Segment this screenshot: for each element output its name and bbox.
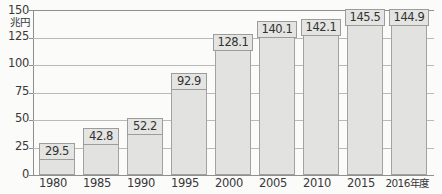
bar-2000 bbox=[215, 34, 251, 175]
y-axis-unit-label: 兆円 bbox=[0, 17, 29, 28]
y-tick-label-25: 25 bbox=[0, 141, 29, 152]
bar-2005 bbox=[259, 21, 295, 175]
bar-value-label-2010: 142.1 bbox=[301, 19, 341, 36]
bar-value-label-1980: 29.5 bbox=[39, 143, 75, 160]
y-tick-label-100: 100 bbox=[0, 58, 29, 69]
y-tick-mark-100 bbox=[29, 65, 33, 66]
y-tick-mark-50 bbox=[29, 120, 33, 121]
y-tick-mark-0 bbox=[29, 175, 33, 176]
y-tick-mark-150 bbox=[29, 10, 33, 11]
bar-2010 bbox=[303, 19, 339, 175]
x-tick-label-2016: 2016年度 bbox=[374, 177, 440, 190]
y-tick-label-125: 125 bbox=[0, 31, 29, 42]
y-tick-label-150: 150 bbox=[0, 5, 29, 16]
bar-value-label-1985: 42.8 bbox=[83, 128, 119, 145]
bar-chart: 150 兆円 125 100 75 50 25 0 bbox=[0, 0, 442, 194]
bar-value-label-2015: 145.5 bbox=[345, 9, 385, 26]
bar-2015 bbox=[347, 15, 383, 175]
bar-value-label-2000: 128.1 bbox=[213, 34, 253, 51]
y-tick-mark-125 bbox=[29, 38, 33, 39]
y-tick-label-75: 75 bbox=[0, 86, 29, 97]
bar-value-label-1995: 92.9 bbox=[171, 73, 207, 90]
bar-value-label-2016: 144.9 bbox=[389, 9, 429, 26]
y-tick-mark-75 bbox=[29, 93, 33, 94]
bar-2016 bbox=[391, 16, 427, 175]
bar-value-label-1990: 52.2 bbox=[127, 118, 163, 135]
plot-area: 29.5 42.8 52.2 92.9 128.1 140.1 142.1 14… bbox=[33, 10, 434, 175]
y-tick-label-50: 50 bbox=[0, 113, 29, 124]
y-tick-mark-25 bbox=[29, 148, 33, 149]
bar-value-label-2005: 140.1 bbox=[257, 21, 297, 38]
